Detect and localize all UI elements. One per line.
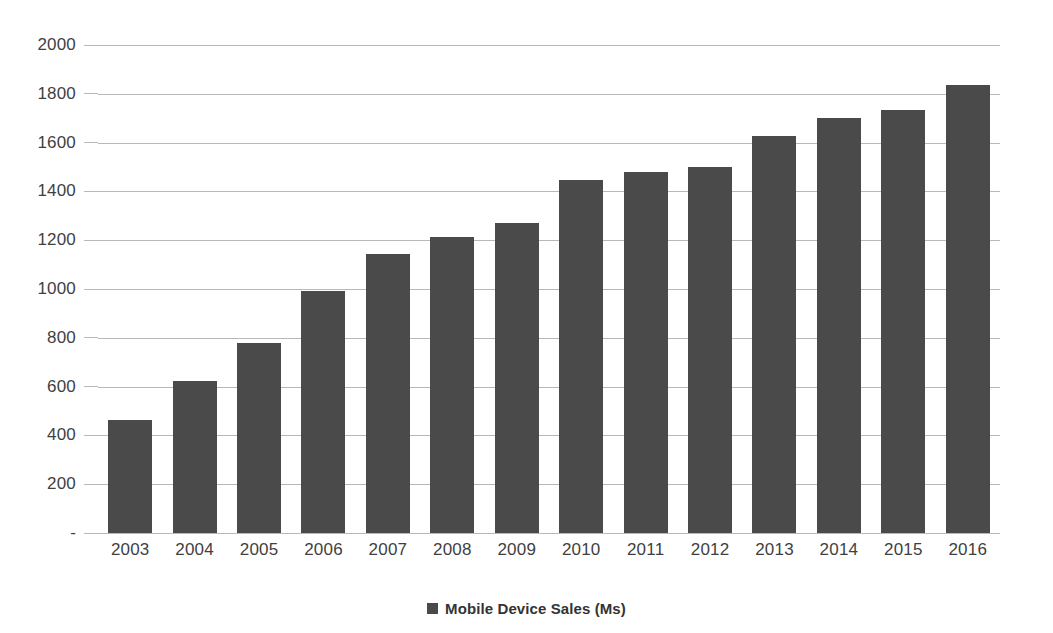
bar-slot: [98, 45, 162, 533]
x-tick: 2005: [227, 540, 291, 560]
x-tick: 2004: [162, 540, 226, 560]
bars-layer: [98, 45, 1000, 533]
y-tick-label: 600: [47, 377, 76, 397]
x-tick: 2014: [807, 540, 871, 560]
bar-slot: [162, 45, 226, 533]
bar-slot: [420, 45, 484, 533]
x-tick: 2003: [98, 540, 162, 560]
x-tick-label: 2008: [433, 540, 472, 559]
x-tick-label: 2009: [497, 540, 536, 559]
y-tick-label: 200: [47, 474, 76, 494]
y-tick-mark: [84, 337, 98, 338]
bar-chart: -200400600800100012001400160018002000 20…: [0, 0, 1053, 633]
bar-slot: [936, 45, 1000, 533]
bar-2003[interactable]: [108, 420, 152, 533]
bar-2012[interactable]: [688, 167, 732, 533]
bar-2015[interactable]: [881, 110, 925, 533]
y-tick-label: 1800: [37, 84, 76, 104]
bar-slot: [227, 45, 291, 533]
x-tick: 2007: [356, 540, 420, 560]
legend-item-label: Mobile Device Sales (Ms): [445, 600, 626, 617]
bar-2008[interactable]: [430, 237, 474, 533]
y-tick-1200: 1200: [37, 230, 98, 250]
chart-legend: Mobile Device Sales (Ms): [0, 600, 1053, 617]
bar-slot: [742, 45, 806, 533]
y-tick-label: 1600: [37, 133, 76, 153]
gridline-0: [98, 533, 1000, 534]
y-tick-1600: 1600: [37, 133, 98, 153]
bar-2016[interactable]: [946, 85, 990, 533]
y-tick-200: 200: [47, 474, 98, 494]
y-tick-mark: [84, 45, 98, 46]
y-tick-mark: [84, 435, 98, 436]
y-tick-label: 1400: [37, 181, 76, 201]
x-axis: 2003200420052006200720082009201020112012…: [98, 540, 1000, 570]
y-tick-mark: [84, 142, 98, 143]
x-tick-label: 2011: [627, 540, 664, 559]
y-tick-mark: [84, 289, 98, 290]
x-tick-label: 2010: [562, 540, 601, 559]
y-tick-1400: 1400: [37, 181, 98, 201]
y-tick-mark: [84, 533, 98, 534]
bar-2005[interactable]: [237, 343, 281, 533]
y-tick-label: 1200: [37, 230, 76, 250]
bar-slot: [807, 45, 871, 533]
x-tick-label: 2007: [369, 540, 408, 559]
bar-2010[interactable]: [559, 180, 603, 533]
x-tick: 2012: [678, 540, 742, 560]
bar-slot: [485, 45, 549, 533]
bar-2013[interactable]: [752, 136, 796, 533]
y-tick-mark: [84, 93, 98, 94]
y-tick-mark: [84, 191, 98, 192]
bar-slot: [291, 45, 355, 533]
bar-slot: [871, 45, 935, 533]
bar-2004[interactable]: [173, 381, 217, 534]
bar-2011[interactable]: [624, 172, 668, 533]
bar-slot: [549, 45, 613, 533]
bar-slot: [678, 45, 742, 533]
legend-square-marker-icon: [427, 603, 438, 614]
y-tick-mark: [84, 240, 98, 241]
y-tick-1800: 1800: [37, 84, 98, 104]
y-tick-mark: [84, 386, 98, 387]
x-tick: 2008: [420, 540, 484, 560]
x-tick-label: 2015: [884, 540, 923, 559]
y-tick-mark: [84, 484, 98, 485]
x-tick: 2010: [549, 540, 613, 560]
bar-2014[interactable]: [817, 118, 861, 533]
x-tick: 2016: [936, 540, 1000, 560]
x-tick: 2013: [742, 540, 806, 560]
y-axis: -200400600800100012001400160018002000: [0, 0, 98, 633]
y-tick-label: 400: [47, 425, 76, 445]
y-tick-label: 1000: [37, 279, 76, 299]
x-tick: 2006: [291, 540, 355, 560]
x-tick-label: 2004: [175, 540, 214, 559]
x-tick-label: 2013: [755, 540, 794, 559]
bar-2007[interactable]: [366, 254, 410, 533]
y-tick-label: 2000: [37, 35, 76, 55]
y-tick-2000: 2000: [37, 35, 98, 55]
x-tick-label: 2005: [240, 540, 279, 559]
y-tick-0: -: [70, 523, 98, 543]
y-tick-400: 400: [47, 425, 98, 445]
x-tick-label: 2003: [111, 540, 150, 559]
y-tick-600: 600: [47, 377, 98, 397]
x-tick-label: 2006: [304, 540, 343, 559]
x-tick: 2009: [485, 540, 549, 560]
x-tick-label: 2012: [691, 540, 730, 559]
x-tick-label: 2016: [948, 540, 987, 559]
y-tick-1000: 1000: [37, 279, 98, 299]
y-tick-label: -: [70, 523, 76, 543]
bar-slot: [356, 45, 420, 533]
y-tick-800: 800: [47, 328, 98, 348]
x-tick-label: 2014: [820, 540, 859, 559]
bar-2009[interactable]: [495, 223, 539, 533]
x-tick: 2011: [613, 540, 677, 560]
y-tick-label: 800: [47, 328, 76, 348]
x-tick: 2015: [871, 540, 935, 560]
bar-slot: [613, 45, 677, 533]
bar-2006[interactable]: [301, 291, 345, 533]
